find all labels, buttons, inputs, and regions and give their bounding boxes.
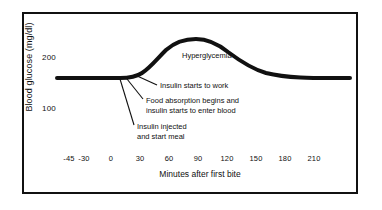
leader-line-food-absorption	[127, 79, 143, 99]
annotation-line: Food absorption begins and	[146, 96, 239, 106]
annotation-line: Insulin injected	[137, 122, 187, 132]
annotation-line: and start meal	[137, 132, 187, 142]
hyperglycemia-label: Hyperglycemia	[182, 51, 232, 60]
leader-line-insulin-starts-to-work	[135, 75, 157, 85]
insulin-starts-to-work-annotation: Insulin starts to work	[160, 81, 228, 91]
annotation-line: Insulin starts to work	[160, 81, 228, 91]
figure-container: Blood glucose (mg/dl) 200 100 -45 -30 0 …	[0, 0, 382, 210]
insulin-injected-annotation: Insulin injected and start meal	[137, 122, 187, 141]
annotation-line: insulin starts to enter blood	[146, 106, 239, 116]
food-absorption-annotation: Food absorption begins and insulin start…	[146, 96, 239, 115]
